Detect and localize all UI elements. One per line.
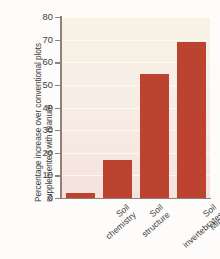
y-tick-label: 50: [36, 79, 53, 90]
y-tick-mark: [55, 40, 61, 41]
y-tick-label: 70: [36, 34, 53, 45]
chart-figure: Percentage increase over conventional pl…: [0, 0, 220, 259]
bar: [103, 160, 131, 198]
gridline: [62, 40, 210, 41]
y-tick-label: 60: [36, 57, 53, 68]
y-tick-label: 20: [36, 147, 53, 158]
y-tick-label: 30: [36, 125, 53, 136]
x-axis-line: [60, 198, 211, 199]
y-tick-mark: [55, 175, 61, 176]
bar: [140, 74, 168, 198]
plot-area: [62, 17, 210, 198]
y-tick-mark: [55, 85, 61, 86]
y-tick-mark: [55, 198, 61, 199]
y-tick-label: 40: [36, 102, 53, 113]
x-tick-label: Soilstructure: [133, 202, 171, 239]
y-tick-label: 80: [36, 11, 53, 22]
y-tick-mark: [55, 108, 61, 109]
bar: [177, 42, 205, 198]
y-axis-label-container: Percentage increase over conventional pl…: [0, 0, 38, 205]
y-tick-mark: [55, 130, 61, 131]
y-tick-label: 0: [36, 192, 53, 203]
gridline: [62, 17, 210, 18]
y-tick-mark: [55, 17, 61, 18]
y-tick-label: 10: [36, 170, 53, 181]
x-tick-label: Soilchemistry: [97, 202, 138, 241]
y-tick-mark: [55, 62, 61, 63]
y-tick-mark: [55, 153, 61, 154]
